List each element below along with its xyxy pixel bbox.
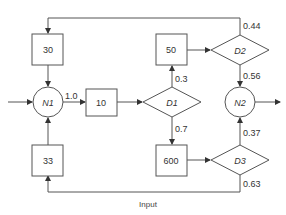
diagram-caption: Input — [0, 200, 286, 209]
flow-diagram: 30 33 N1 10 D1 50 600 D2 D3 N2 1.0 0.3 0… — [0, 0, 286, 215]
label-box-30: 30 — [43, 45, 53, 55]
edge-label-n1-to-10: 1.0 — [65, 91, 78, 101]
edge-label-d2-loop: 0.44 — [243, 21, 261, 31]
label-n1: N1 — [42, 98, 54, 108]
label-d1: D1 — [166, 98, 178, 108]
label-n2: N2 — [234, 98, 246, 108]
edge-label-d2-to-n2: 0.56 — [243, 71, 261, 81]
edge-label-d3-to-n2: 0.37 — [243, 128, 261, 138]
label-box-50: 50 — [166, 45, 176, 55]
label-d3: D3 — [234, 156, 246, 166]
edge-d3-loop — [48, 175, 240, 192]
edge-label-d1-to-600: 0.7 — [175, 124, 188, 134]
edge-d2-loop — [48, 18, 240, 35]
edge-label-d3-loop: 0.63 — [243, 179, 261, 189]
label-box-33: 33 — [43, 156, 53, 166]
label-d2: D2 — [234, 46, 246, 56]
edge-label-d1-to-50: 0.3 — [175, 74, 188, 84]
label-box-10: 10 — [96, 98, 106, 108]
label-box-600: 600 — [163, 156, 178, 166]
